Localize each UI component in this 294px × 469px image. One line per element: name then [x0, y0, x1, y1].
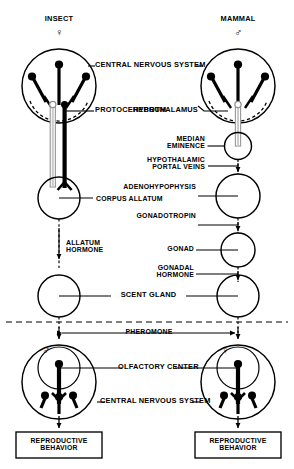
label-adenohypophysis: ADENOHYPOPHYSIS [118, 183, 196, 190]
label-hypothalamic-portal-veins: HYPOTHALAMIC PORTAL VEINS [128, 156, 205, 171]
label-protocerebrum: PROTOCEREBRUM [95, 106, 175, 114]
label-gonad: GONAD [140, 245, 194, 252]
insect-brain-group [22, 49, 96, 190]
label-gonadotropin: GONADOTROPIN [118, 212, 196, 219]
mammal-brain-group [201, 49, 275, 146]
label-olfactory-center: OLFACTORY CENTER [118, 363, 178, 371]
label-gonadal-hormone: GONADAL HORMONE [136, 264, 194, 279]
label-reproductive-behavior-right: REPRODUCTIVE BEHAVIOR [195, 437, 281, 452]
label-central-nervous-system-bottom: CENTRAL NERVOUS SYSTEM [100, 397, 197, 405]
right-receiver-female-symbol: ♀ [221, 345, 229, 356]
label-central-nervous-system-top: CENTRAL NERVOUS SYSTEM [95, 61, 203, 69]
label-median-eminence: MEDIAN EMINENCE [143, 135, 205, 150]
figure-canvas: INSECT ♀ MAMMAL ♂ CENTRAL NERVOUS SYSTEM… [0, 0, 294, 469]
label-corpus-allatum: CORPUS ALLATUM [96, 195, 186, 202]
label-scent-gland: SCENT GLAND [108, 291, 189, 299]
column-title-mammal: MAMMAL [205, 15, 271, 23]
insect-female-symbol: ♀ [26, 27, 92, 38]
mammal-male-symbol: ♂ [205, 27, 271, 38]
left-receiver-male-symbol: ♂ [42, 345, 50, 356]
column-title-insect: INSECT [26, 15, 92, 23]
leader-lines [59, 66, 238, 402]
label-pheromone: PHEROMONE [113, 328, 185, 335]
label-allatum-hormone: ALLATUM HORMONE [66, 239, 130, 254]
label-reproductive-behavior-left: REPRODUCTIVE BEHAVIOR [16, 437, 102, 452]
